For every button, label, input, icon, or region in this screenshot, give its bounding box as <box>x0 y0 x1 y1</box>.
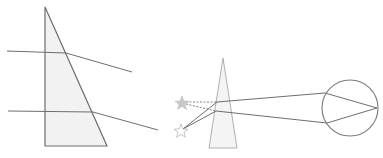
prism-refraction-diagram <box>0 0 383 158</box>
apparent-ray-lower <box>186 104 216 111</box>
right-prism-group <box>174 58 237 148</box>
real-star-icon <box>174 124 188 137</box>
right-prism <box>209 58 237 148</box>
real-ray-upper <box>183 102 217 129</box>
eye-ray-upper <box>217 93 377 108</box>
apparent-star-icon <box>175 96 189 109</box>
eye-ray-lower <box>216 108 377 123</box>
left-prism <box>45 7 107 146</box>
real-ray-lower <box>183 111 216 129</box>
eye-circle <box>322 80 378 136</box>
left-prism-group <box>7 7 158 146</box>
